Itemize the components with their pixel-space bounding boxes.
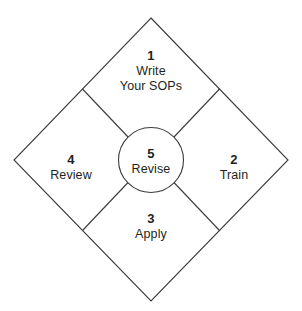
- diagram-node-train: 2 Train: [196, 152, 272, 183]
- diagram-node-write: 1 Write Your SOPs: [81, 48, 221, 94]
- node-label-train: Train: [196, 168, 272, 183]
- node-label-revise: Revise: [113, 162, 189, 177]
- node-label-review: Review: [31, 168, 111, 183]
- node-number-revise: 5: [113, 146, 189, 162]
- diagram-node-apply: 3 Apply: [96, 211, 206, 242]
- node-label-write-line2: Your SOPs: [81, 79, 221, 94]
- diagram-canvas: 1 Write Your SOPs 2 Train 3 Apply 4 Revi…: [0, 0, 302, 311]
- diagram-node-revise: 5 Revise: [113, 146, 189, 177]
- node-number-apply: 3: [96, 211, 206, 227]
- node-label-apply: Apply: [96, 227, 206, 242]
- node-label-write-line1: Write: [136, 64, 165, 78]
- node-number-write: 1: [81, 48, 221, 64]
- diagram-node-review: 4 Review: [31, 152, 111, 183]
- node-label-write: Write Your SOPs: [81, 64, 221, 95]
- node-number-train: 2: [196, 152, 272, 168]
- node-number-review: 4: [31, 152, 111, 168]
